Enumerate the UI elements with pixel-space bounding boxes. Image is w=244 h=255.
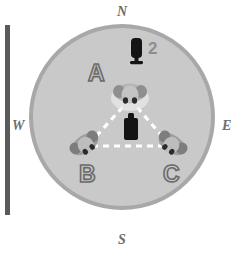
diagram-overlay	[0, 0, 244, 255]
speaker-cue-north-body	[131, 38, 142, 58]
speaker-cue-center-body	[124, 118, 138, 140]
figure-canvas: N S W E	[0, 0, 244, 255]
arena-label-b: B	[79, 163, 96, 186]
arena-label-a: A	[88, 62, 105, 85]
speaker-cue-center	[124, 113, 138, 140]
animal-a-eye-right	[132, 97, 137, 103]
animal-a-eye-left	[123, 97, 128, 103]
speaker-number-callout: 2	[148, 39, 157, 59]
arena-label-c: C	[163, 163, 180, 186]
speaker-cue-north	[130, 38, 143, 64]
speaker-cue-north-base	[130, 61, 143, 64]
